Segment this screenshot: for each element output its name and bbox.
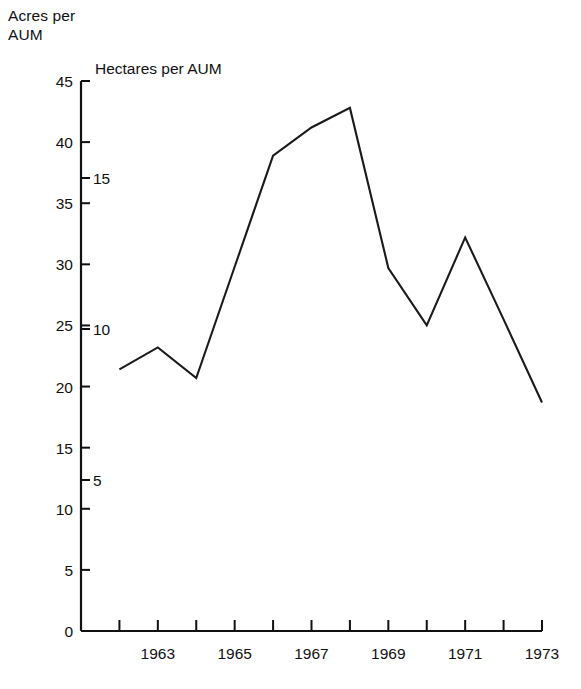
x-tick-label-year: 1973 — [525, 645, 559, 662]
chart-container: Acres per AUM Hectares per AUM 051015202… — [0, 0, 581, 689]
y-tick-label-acres: 35 — [56, 195, 73, 212]
x-tick-label-year: 1965 — [217, 645, 251, 662]
y-tick-label-acres: 5 — [64, 562, 73, 579]
y-tick-label-acres: 0 — [64, 623, 73, 640]
y-tick-label-acres: 30 — [56, 256, 74, 273]
y-tick-label-acres: 10 — [56, 501, 74, 518]
y-tick-label-acres: 40 — [56, 134, 74, 151]
series-line — [119, 108, 542, 403]
y-tick-label-acres: 25 — [56, 317, 73, 334]
y-axis-acres: 051015202530354045 — [56, 73, 90, 640]
x-axis-years: 196319651967196919711973 — [81, 620, 559, 662]
y-tick-label-acres: 20 — [56, 379, 74, 396]
y-tick-label-acres: 45 — [56, 73, 73, 90]
x-tick-label-year: 1971 — [448, 645, 482, 662]
y-tick-label-hectares: 15 — [93, 170, 110, 187]
y-axis-hectares: 51015 — [81, 170, 111, 489]
y-tick-label-hectares: 10 — [93, 321, 111, 338]
x-tick-label-year: 1969 — [371, 645, 405, 662]
line-chart-svg: 051015202530354045 51015 196319651967196… — [0, 0, 581, 689]
data-series-acres-per-aum — [119, 108, 542, 403]
x-tick-label-year: 1963 — [141, 645, 175, 662]
x-tick-label-year: 1967 — [294, 645, 328, 662]
y-tick-label-hectares: 5 — [93, 472, 102, 489]
y-tick-label-acres: 15 — [56, 440, 73, 457]
